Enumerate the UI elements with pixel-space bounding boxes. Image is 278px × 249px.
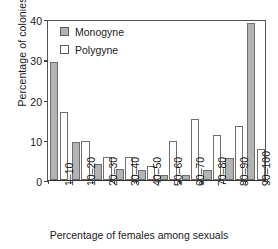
y-tick-label: 0: [36, 176, 42, 188]
y-axis-title: Percentage of colonies: [16, 0, 28, 132]
x-tick-label: 10–20: [85, 157, 97, 186]
x-tick-label: 30–40: [129, 157, 141, 186]
y-tick-label: 20: [30, 96, 42, 108]
x-axis-title: Percentage of females among sexuals: [0, 229, 278, 241]
x-tick-label: 1–10: [63, 163, 75, 186]
x-tick-label: 50–60: [172, 157, 184, 186]
bar-monogyne: [50, 62, 58, 180]
legend-swatch-monogyne-icon: [60, 27, 69, 36]
legend-item-polygyne: Polygyne: [60, 42, 124, 57]
x-tick-mark: [48, 180, 49, 184]
x-tick-label: 80–90: [238, 157, 250, 186]
legend-label-monogyne: Monogyne: [75, 26, 124, 38]
y-tick-label: 30: [30, 55, 42, 67]
x-tick-label: 90–100: [260, 151, 272, 186]
bar-chart-figure: Percentage of colonies 010203040 1–1010–…: [0, 0, 278, 249]
y-tick-label: 40: [30, 15, 42, 27]
legend-label-polygyne: Polygyne: [75, 44, 118, 56]
x-tick-label: 60–70: [194, 157, 206, 186]
x-tick-label: 70–80: [216, 157, 228, 186]
x-tick-label: 20–30: [107, 157, 119, 186]
chart-legend: Monogyne Polygyne: [60, 24, 124, 60]
y-tick-label: 10: [30, 136, 42, 148]
legend-item-monogyne: Monogyne: [60, 24, 124, 39]
x-tick-label: 40–50: [151, 157, 163, 186]
legend-swatch-polygyne-icon: [60, 45, 69, 54]
